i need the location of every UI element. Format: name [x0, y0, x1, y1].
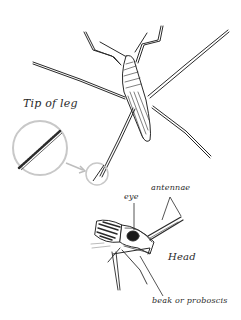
hind-legs	[100, 106, 211, 177]
tip-of-leg-label: Tip of leg	[23, 97, 78, 110]
front-legs	[84, 26, 163, 65]
antennae-label: antennae	[151, 183, 190, 192]
illustration-canvas	[0, 0, 241, 320]
eye-label: eye	[124, 192, 139, 201]
insect-body	[122, 56, 150, 142]
head-label: Head	[168, 251, 196, 262]
beak-label: beak or proboscis	[152, 296, 228, 305]
tip-of-leg-magnifier	[13, 121, 108, 185]
water-strider-drawing	[0, 0, 241, 320]
